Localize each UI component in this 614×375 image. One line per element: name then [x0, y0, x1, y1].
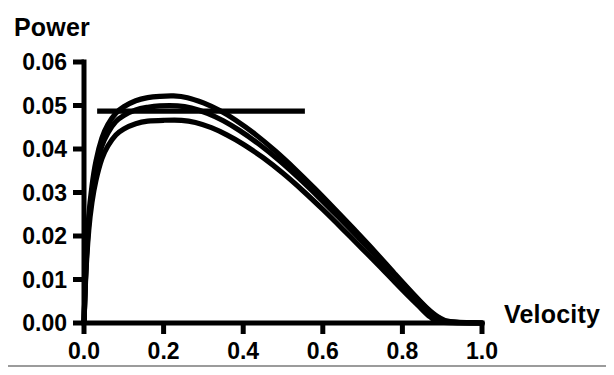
curve-upper [84, 96, 482, 323]
y-tick-label: 0.02 [0, 223, 67, 249]
x-tick-label: 0.4 [211, 338, 275, 364]
x-tick-label: 0.0 [52, 338, 116, 364]
y-tick-label: 0.05 [0, 93, 67, 119]
x-tick-label: 0.2 [132, 338, 196, 364]
x-tick-label: 1.0 [450, 338, 514, 364]
x-tick-label: 0.6 [291, 338, 355, 364]
plot-area [0, 0, 614, 375]
curve-middle [84, 106, 482, 323]
y-tick-label: 0.03 [0, 180, 67, 206]
x-tick-label: 0.8 [370, 338, 434, 364]
curve-lower [84, 120, 482, 323]
data-curves [84, 96, 482, 323]
y-tick-label: 0.06 [0, 49, 67, 75]
y-tick-label: 0.01 [0, 267, 67, 293]
y-tick-label: 0.04 [0, 136, 67, 162]
y-tick-label: 0.00 [0, 310, 67, 336]
bottom-rule [8, 365, 606, 367]
power-velocity-chart: Power Velocity 0.060.050.040.030.020.010… [0, 0, 614, 375]
